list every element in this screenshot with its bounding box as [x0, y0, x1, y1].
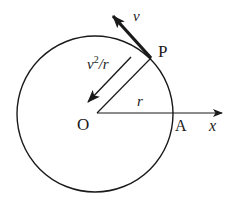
point-p-label: P — [158, 42, 167, 61]
circular-motion-diagram: v P v2/r O r A x — [0, 0, 233, 207]
acceleration-label: v2/r — [87, 54, 109, 72]
center-label: O — [77, 115, 89, 134]
velocity-label: v — [133, 8, 140, 24]
acceleration-label-rest: /r — [98, 56, 109, 72]
x-axis-label: x — [208, 117, 216, 134]
point-a-label: A — [175, 117, 187, 134]
radius-label: r — [137, 93, 143, 109]
velocity-arrow — [113, 16, 151, 58]
